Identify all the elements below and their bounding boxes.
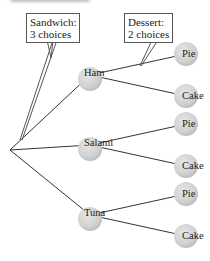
sandwich-label: Ham [84,67,104,78]
tree-nodes: PieCakeHamPieCakeSalamiPieCakeTuna [78,42,204,248]
sandwich-label: Tuna [84,207,106,218]
edge-root-to-tuna [10,150,90,215]
leaf-label: Cake [182,160,204,171]
tree-diagram: PieCakeHamPieCakeSalamiPieCakeTuna Sandw… [0,0,210,261]
leaf-label: Cake [182,230,204,241]
edge-salami-to-cake [90,145,186,166]
leaf-label: Cake [182,90,204,101]
leaf-label: Pie [182,48,196,59]
dessert-callout-line1: Dessert: [128,16,169,28]
edge-root-to-salami [10,145,90,150]
sandwich-pointer-2 [22,40,57,140]
sandwich-callout: Sandwich: 3 choices [26,13,80,43]
sandwich-callout-line1: Sandwich: [30,16,76,28]
edge-ham-to-cake [90,75,186,96]
edge-tuna-to-cake [90,215,186,236]
dessert-callout-line2: 2 choices [128,28,169,40]
leaf-label: Pie [182,188,196,199]
sandwich-label: Salami [84,137,113,148]
leaf-label: Pie [182,118,196,129]
dessert-callout: Dessert: 2 choices [124,13,173,43]
sandwich-callout-line2: 3 choices [30,28,76,40]
